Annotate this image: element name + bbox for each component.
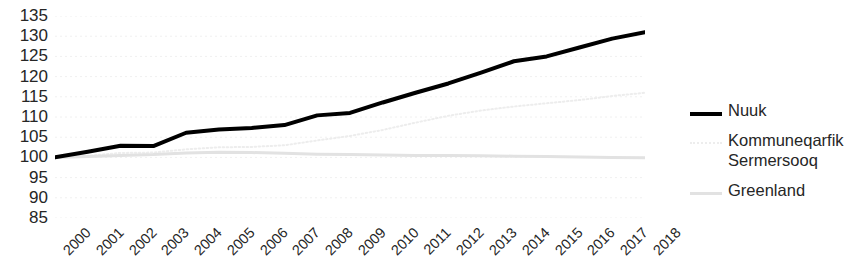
legend-label-nuuk: Nuuk — [728, 100, 767, 120]
plot-area — [55, 16, 645, 218]
y-tick-label: 125 — [4, 47, 48, 64]
x-tick-label: 2018 — [650, 225, 683, 258]
legend-label-greenland: Greenland — [728, 180, 805, 200]
y-tick-label: 100 — [4, 148, 48, 165]
y-tick-label: 95 — [4, 169, 48, 186]
legend-swatch-kommuneqarfik-sermersooq — [690, 139, 722, 145]
series-line-nuuk — [55, 32, 645, 157]
x-tick-label: 2005 — [224, 225, 257, 258]
x-tick-label: 2017 — [618, 225, 651, 258]
y-tick-label: 120 — [4, 68, 48, 85]
y-tick-label: 115 — [4, 88, 48, 105]
x-tick-label: 2010 — [388, 225, 421, 258]
x-tick-label: 2009 — [355, 225, 388, 258]
x-tick-label: 2000 — [60, 225, 93, 258]
x-tick-label: 2001 — [93, 225, 126, 258]
legend-swatch-greenland — [690, 189, 722, 195]
line-chart: 135130125120115110105100959085 200020012… — [0, 0, 845, 277]
legend-item-kommuneqarfik-sermersooq[interactable]: Kommuneqarfik Sermersooq — [690, 130, 840, 170]
y-tick-label: 90 — [4, 189, 48, 206]
x-tick-label: 2014 — [519, 225, 552, 258]
y-axis-tick-labels: 135130125120115110105100959085 — [0, 0, 48, 230]
chart-legend: Nuuk Kommuneqarfik Sermersooq Greenland — [690, 100, 840, 211]
x-tick-label: 2012 — [454, 225, 487, 258]
x-tick-label: 2013 — [487, 225, 520, 258]
y-tick-label: 130 — [4, 27, 48, 44]
x-tick-label: 2015 — [552, 225, 585, 258]
y-tick-label: 110 — [4, 108, 48, 125]
x-tick-label: 2011 — [421, 225, 453, 257]
x-tick-label: 2016 — [585, 225, 618, 258]
x-tick-label: 2002 — [126, 225, 159, 258]
x-tick-label: 2006 — [257, 225, 290, 258]
legend-swatch-nuuk — [690, 109, 722, 115]
legend-item-nuuk[interactable]: Nuuk — [690, 100, 840, 120]
x-tick-label: 2003 — [159, 225, 192, 258]
y-tick-label: 135 — [4, 7, 48, 24]
y-tick-label: 85 — [4, 209, 48, 226]
legend-item-greenland[interactable]: Greenland — [690, 180, 840, 200]
x-axis-tick-labels: 2000200120022003200420052006200720082009… — [55, 219, 645, 277]
x-tick-label: 2004 — [192, 225, 225, 258]
legend-label-kommuneqarfik-sermersooq: Kommuneqarfik Sermersooq — [728, 130, 844, 170]
x-tick-label: 2007 — [290, 225, 323, 258]
x-tick-label: 2008 — [323, 225, 356, 258]
plot-svg — [55, 16, 645, 218]
y-tick-label: 105 — [4, 128, 48, 145]
